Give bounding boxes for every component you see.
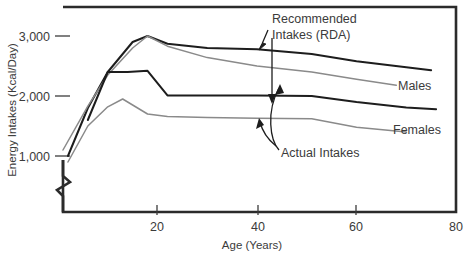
y-axis-title: Energy Intakes (Kcal/Day) — [6, 43, 18, 177]
x-tick-label-80: 80 — [449, 220, 463, 234]
y-tick-label-3000: 3,000 — [19, 30, 50, 44]
males-series-label: Males — [398, 79, 431, 93]
y-tick-label-2000: 2,000 — [19, 90, 50, 104]
females-series-label: Females — [393, 123, 441, 137]
x-tick-label-60: 60 — [349, 220, 363, 234]
x-tick-label-40: 40 — [251, 220, 265, 234]
x-axis-title: Age (Years) — [222, 239, 282, 251]
rda-annotation-line2: Intakes (RDA) — [272, 28, 351, 42]
actual-annotation-label: Actual Intakes — [281, 146, 360, 160]
energy-intakes-line-chart: 3,000 2,000 1,000 20 40 60 80 Energy Int… — [0, 0, 469, 260]
rda-annotation-line1: Recommended — [272, 12, 357, 26]
x-tick-label-20: 20 — [150, 220, 164, 234]
y-tick-label-1000: 1,000 — [19, 150, 50, 164]
